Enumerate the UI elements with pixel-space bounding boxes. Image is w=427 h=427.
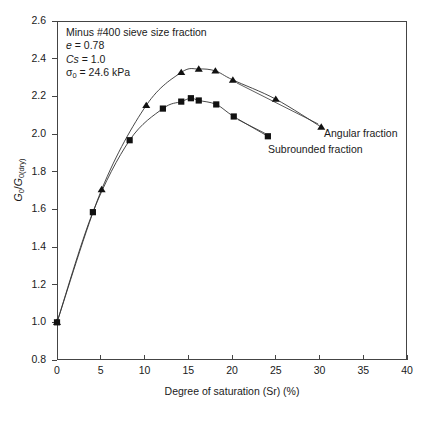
y-axis-title-num-sub: 0 — [17, 189, 26, 193]
figure-container: 0.8 1.0 1.2 1.4 1.6 1.8 2.0 2.2 2.4 2.6 … — [0, 0, 427, 427]
x-axis-title: Degree of saturation (Sr) (%) — [57, 385, 407, 397]
y-tick-label: 1.2 — [31, 278, 46, 291]
y-tick-mark — [52, 171, 57, 172]
x-tick-mark — [319, 355, 320, 360]
annotation-sigma-line: σ0 = 24.6 kPa — [66, 66, 207, 80]
x-tick-mark — [144, 355, 145, 360]
x-tick-mark — [363, 355, 364, 360]
x-tick-label: 15 — [168, 364, 208, 376]
x-tick-mark — [57, 355, 58, 360]
x-tick-mark — [188, 355, 189, 360]
x-tick-label: 10 — [125, 364, 165, 376]
x-tick-label: 30 — [300, 364, 340, 376]
annotation-void-ratio-line: e = 0.78 — [66, 39, 207, 52]
x-tick-mark — [100, 355, 101, 360]
annotation-cs-line: Cs = 1.0 — [66, 53, 207, 66]
y-axis-title: G0/G0(dry) — [12, 110, 24, 250]
annotation-sigma-sub: 0 — [72, 71, 76, 80]
x-tick-mark — [232, 355, 233, 360]
x-tick-label: 35 — [343, 364, 383, 376]
annotation-void-ratio-value: = 0.78 — [72, 39, 104, 51]
annotation-cs-value: = 1.0 — [79, 53, 106, 65]
y-tick-label: 1.6 — [31, 202, 46, 215]
y-tick-mark — [52, 209, 57, 210]
annotation-sigma-value: = 24.6 kPa — [77, 66, 130, 78]
y-tick-label: 2.0 — [31, 127, 46, 140]
series-label-subrounded-fraction: Subrounded fraction — [268, 143, 363, 155]
y-axis-title-denominator: G — [12, 178, 24, 186]
y-tick-mark — [52, 21, 57, 22]
y-tick-mark — [52, 58, 57, 59]
y-tick-label: 2.2 — [31, 89, 46, 102]
x-tick-label: 20 — [212, 364, 252, 376]
y-tick-label: 1.8 — [31, 165, 46, 178]
y-tick-label: 1.0 — [31, 315, 46, 328]
series-label-angular-fraction: Angular fraction — [324, 127, 398, 139]
y-axis-title-numerator: G — [12, 193, 24, 201]
annotation-block: Minus #400 sieve size fraction e = 0.78 … — [66, 26, 207, 81]
y-tick-label: 1.4 — [31, 240, 46, 253]
y-tick-label: 2.4 — [31, 52, 46, 65]
x-tick-label: 5 — [81, 364, 121, 376]
x-tick-label: 0 — [37, 364, 77, 376]
y-tick-mark — [52, 322, 57, 323]
x-tick-mark — [407, 355, 408, 360]
y-tick-mark — [52, 284, 57, 285]
y-tick-mark — [52, 247, 57, 248]
x-tick-mark — [275, 355, 276, 360]
y-tick-label: 2.6 — [31, 14, 46, 27]
x-tick-label: 25 — [256, 364, 296, 376]
annotation-sieve-line: Minus #400 sieve size fraction — [66, 26, 207, 39]
y-axis-title-den-sub: 0(dry) — [17, 158, 26, 178]
annotation-cs-symbol: Cs — [66, 53, 79, 65]
y-tick-mark — [52, 134, 57, 135]
x-tick-label: 40 — [387, 364, 427, 376]
y-tick-mark — [52, 96, 57, 97]
